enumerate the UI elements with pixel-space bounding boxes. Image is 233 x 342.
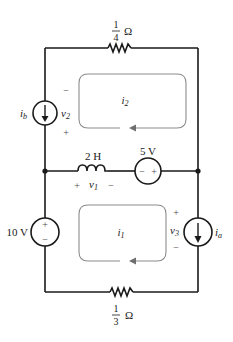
resistor-top: 1 4 Ω [108, 19, 132, 52]
inductor-value: 2 H [85, 150, 101, 162]
v2-label: v2 [61, 107, 70, 121]
v3-label: v3 [170, 224, 179, 238]
resistor-top-unit: Ω [124, 25, 132, 37]
v3-minus: − [173, 242, 179, 253]
5v-minus: − [139, 166, 145, 177]
ia-label: ia [215, 226, 222, 240]
arrow-left-icon [129, 125, 136, 132]
i2-label: i2 [121, 94, 128, 108]
voltage-source-5v: − + 5 V [135, 145, 161, 184]
v1-plus: + [74, 180, 80, 191]
inductor-coil-icon [78, 165, 108, 171]
v2-polarity: − v2 + [61, 85, 70, 138]
resistor-bottom-unit: Ω [125, 309, 133, 321]
junction-dot-right [195, 168, 200, 173]
circuit-diagram: 1 4 Ω 1 3 Ω ib − v2 + i2 2 H + v1 − [0, 0, 233, 342]
current-source-ib: ib [20, 101, 57, 125]
resistor-top-numerator: 1 [114, 19, 119, 30]
v1-label: v1 [89, 178, 98, 192]
v2-minus: − [63, 85, 69, 96]
resistor-zigzag-icon [110, 288, 133, 296]
mesh-loop-path [79, 74, 186, 128]
resistor-zigzag-icon [108, 44, 131, 52]
5v-plus: + [151, 166, 157, 177]
10v-plus: + [42, 219, 48, 230]
v2-plus: + [63, 127, 69, 138]
mesh-loop-i2: i2 [79, 74, 186, 132]
i1-label: i1 [117, 226, 124, 240]
v3-plus: + [173, 207, 179, 218]
resistor-top-denominator: 4 [114, 32, 119, 43]
5v-value: 5 V [140, 145, 156, 157]
arrow-left-icon [129, 258, 136, 265]
voltage-source-10v: + − 10 V [7, 218, 60, 246]
10v-value: 10 V [7, 226, 29, 238]
resistor-bottom-numerator: 1 [114, 303, 119, 314]
mesh-loop-i1: i1 [79, 205, 166, 265]
resistor-bottom-denominator: 3 [114, 316, 119, 327]
v1-minus: − [108, 180, 114, 191]
v3-polarity: + v3 − [170, 207, 179, 253]
ib-label: ib [20, 107, 27, 121]
10v-minus: − [42, 234, 48, 245]
resistor-bottom: 1 3 Ω [110, 288, 133, 327]
junction-dot-left [42, 168, 47, 173]
current-source-ia: ia [184, 218, 222, 246]
